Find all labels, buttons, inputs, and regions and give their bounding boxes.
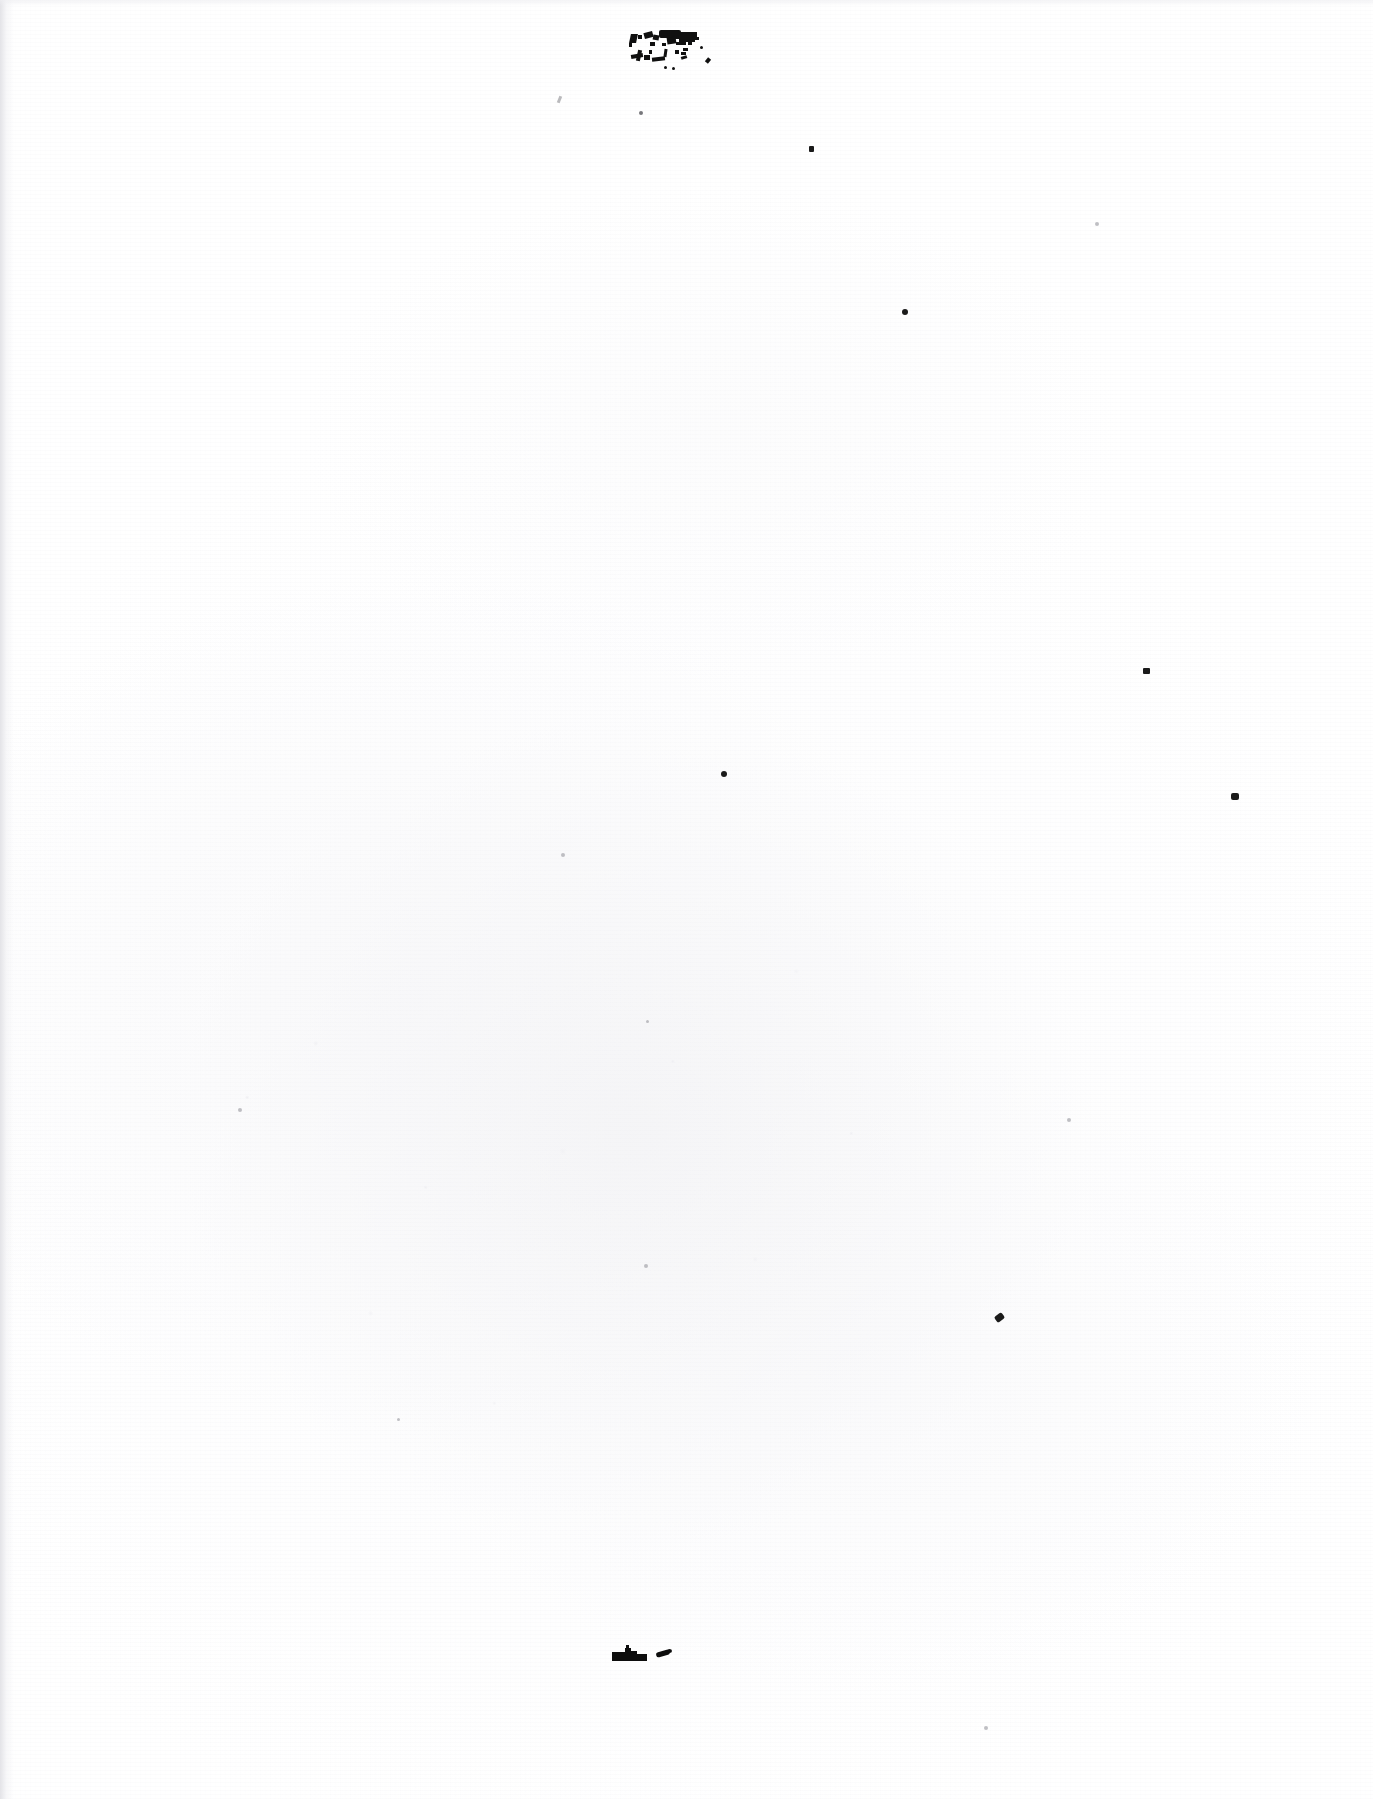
scan-speck xyxy=(238,1108,242,1112)
ink-stroke xyxy=(681,55,688,60)
ink-stroke xyxy=(644,55,650,60)
ink-stroke xyxy=(675,50,679,54)
scan-speck xyxy=(644,1264,648,1268)
ink-fleck xyxy=(700,46,703,49)
scan-speck xyxy=(721,771,727,777)
ink-stroke xyxy=(629,34,638,43)
scan-speck xyxy=(639,111,643,115)
scan-speck xyxy=(1095,222,1099,226)
scan-speck xyxy=(646,1020,649,1023)
scan-speck xyxy=(1067,1118,1071,1122)
scan-speck xyxy=(397,1418,400,1421)
ink-fleck xyxy=(667,1649,672,1653)
scan-speck xyxy=(561,853,565,857)
ink-stroke xyxy=(612,1652,626,1661)
ink-stroke xyxy=(662,43,666,46)
ink-stroke xyxy=(652,56,665,61)
ink-stroke xyxy=(636,1654,647,1661)
ink-stroke xyxy=(676,42,686,45)
ink-fleck xyxy=(626,1645,629,1648)
ink-stroke xyxy=(667,36,677,44)
scan-speck xyxy=(984,1726,988,1730)
handwritten-annotation-bottom: [illegible] xyxy=(612,1643,686,1665)
scan-speck xyxy=(809,146,814,152)
ink-fleck xyxy=(705,57,711,63)
ink-stroke xyxy=(683,48,688,51)
scan-speck xyxy=(902,309,908,315)
ink-fleck xyxy=(664,66,667,69)
ink-stroke xyxy=(638,35,642,39)
ink-stroke xyxy=(629,43,632,47)
handwritten-annotation-top: [illegible] xyxy=(628,26,714,78)
scan-speck xyxy=(1231,793,1239,800)
ink-stroke xyxy=(663,49,667,57)
ink-stroke xyxy=(688,42,692,45)
scan-speck xyxy=(1143,668,1150,674)
ink-stroke xyxy=(649,50,652,54)
ink-stroke xyxy=(650,42,655,46)
ink-fleck xyxy=(695,37,699,40)
scanned-document-page: [illegible] [illegible] xyxy=(0,0,1373,1799)
paper-surface xyxy=(0,0,1373,1799)
ink-fleck xyxy=(672,67,675,70)
